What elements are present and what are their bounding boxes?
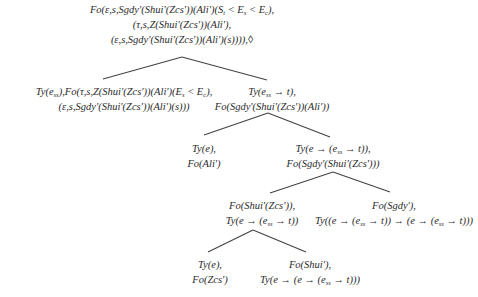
node-level4-right-line-2: Ty(e → (e → (ess → t))) bbox=[260, 272, 360, 287]
node-root-line-1: Fo(ε,s,Sgdy'(Shui'(Zcs'))(Ali')(St < Es … bbox=[90, 2, 274, 17]
node-level1-right-line-1: Ty(ess → t), bbox=[215, 84, 330, 99]
node-level2-right-line-2: Fo(Sgdy'(Shui'(Zcs'))) bbox=[286, 156, 379, 171]
node-level2-right: Ty(e → (ess → t)), Fo(Sgdy'(Shui'(Zcs'))… bbox=[286, 141, 379, 171]
edge-n1-right-to-n2-left bbox=[204, 113, 268, 135]
node-level4-right: Fo(Shui'), Ty(e → (e → (ess → t))) bbox=[260, 257, 360, 287]
node-root-line-3: (ε,s,Sgdy'(Shui'(Zcs'))(Ali')(s)))),◊ bbox=[90, 32, 274, 47]
edge-root-to-n1-left bbox=[103, 57, 182, 79]
node-level2-left-line-1: Ty(e), bbox=[187, 141, 220, 156]
node-level3-right: Fo(Sgdy'), Ty((e → (ess → t)) → (e → (es… bbox=[315, 198, 473, 228]
node-root: Fo(ε,s,Sgdy'(Shui'(Zcs'))(Ali')(St < Es … bbox=[90, 2, 274, 47]
node-level4-left-line-1: Ty(e), bbox=[192, 257, 228, 272]
node-level2-right-line-1: Ty(e → (ess → t)), bbox=[286, 141, 379, 156]
edge-n3-left-to-n4-left bbox=[208, 230, 253, 252]
node-level3-left: Fo(Shui'(Zcs')), Ty(e → (ess → t)) bbox=[226, 198, 299, 228]
edge-root-to-n1-right bbox=[182, 57, 267, 80]
node-root-line-2: (τ,s,Z(Shui'(Zcs'))(Ali'), bbox=[90, 17, 274, 32]
edge-n2-right-to-n3-left bbox=[270, 172, 333, 193]
node-level1-left-line-2: (ε,s,Sgdy'(Shui'(Zcs'))(Ali')(s))) bbox=[36, 99, 213, 114]
edge-n2-right-to-n3-right bbox=[333, 172, 390, 192]
edge-n3-left-to-n4-right bbox=[253, 230, 306, 252]
node-level3-right-line-1: Fo(Sgdy'), bbox=[315, 198, 473, 213]
node-level4-left: Ty(e), Fo(Zcs') bbox=[192, 257, 228, 287]
node-level3-left-line-2: Ty(e → (ess → t)) bbox=[226, 213, 299, 228]
node-level3-left-line-1: Fo(Shui'(Zcs')), bbox=[226, 198, 299, 213]
node-level2-left-line-2: Fo(Ali') bbox=[187, 156, 220, 171]
node-level1-right-line-2: Fo(Sgdy'(Shui'(Zcs'))(Ali')) bbox=[215, 99, 330, 114]
edge-n1-right-to-n2-right bbox=[268, 113, 330, 137]
node-level4-left-line-2: Fo(Zcs') bbox=[192, 272, 228, 287]
node-level2-left: Ty(e), Fo(Ali') bbox=[187, 141, 220, 171]
node-level4-right-line-1: Fo(Shui'), bbox=[260, 257, 360, 272]
node-level1-left-line-1: Ty(ess),Fo(τ,s,Z(Shui'(Zcs'))(Ali')(Es <… bbox=[36, 84, 213, 99]
node-level1-left: Ty(ess),Fo(τ,s,Z(Shui'(Zcs'))(Ali')(Es <… bbox=[36, 84, 213, 114]
node-level1-right: Ty(ess → t), Fo(Sgdy'(Shui'(Zcs'))(Ali')… bbox=[215, 84, 330, 114]
node-level3-right-line-2: Ty((e → (ess → t)) → (e → (ess → t))) bbox=[315, 213, 473, 228]
